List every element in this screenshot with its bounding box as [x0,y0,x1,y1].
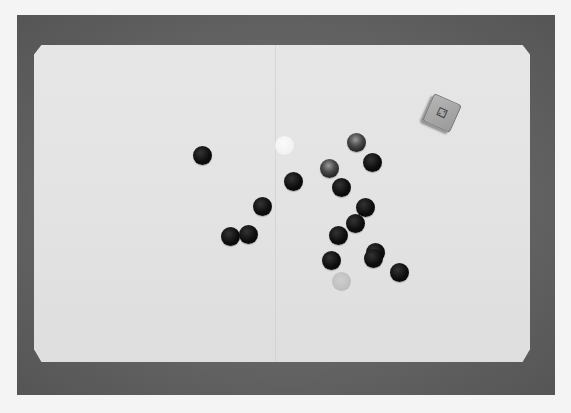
stone-dark [329,226,348,245]
stone-dark [364,249,383,268]
stone-dark [322,251,341,270]
stone-dark [193,146,212,165]
stone-dark [390,263,409,282]
stone-light [332,272,351,291]
stone-dark [363,153,382,172]
die-face: ⚁ [434,104,449,121]
stone-white [275,136,294,155]
game-board [34,45,530,362]
stone-dark [239,225,258,244]
stone-dark [253,197,272,216]
stone-dark [221,227,240,246]
stone-dark [332,178,351,197]
board-fold-line [275,45,276,362]
stone-glassy [320,159,339,178]
stone-glassy [347,133,366,152]
stone-dark [284,172,303,191]
stone-dark [346,214,365,233]
